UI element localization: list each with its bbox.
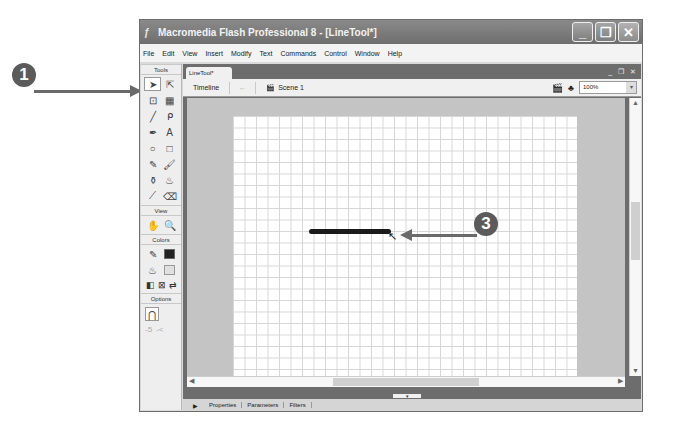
menu-commands[interactable]: Commands xyxy=(280,50,316,57)
stroke-color-swatch[interactable] xyxy=(161,247,178,261)
black-white-icon[interactable]: ◧ xyxy=(146,280,155,290)
horizontal-scrollbar[interactable]: ◀ ▶ xyxy=(187,376,625,387)
snap-to-objects-icon[interactable]: ⋂ xyxy=(145,307,159,321)
no-color-icon[interactable]: ⊠ xyxy=(158,280,166,290)
stage-canvas[interactable]: ↖ xyxy=(233,116,577,376)
text-tool-icon[interactable]: A xyxy=(161,125,178,139)
stroke-color-pencil-icon: ✎ xyxy=(144,247,161,261)
vertical-scrollbar[interactable]: ▲ ▼ xyxy=(629,98,641,376)
menu-window[interactable]: Window xyxy=(355,50,380,57)
line-tool-icon[interactable]: ╱ xyxy=(144,109,161,123)
scene-label: Scene 1 xyxy=(278,84,304,91)
smooth-icon[interactable]: -5 xyxy=(145,325,152,334)
menu-text[interactable]: Text xyxy=(260,50,273,57)
flash-app-icon: ƒ xyxy=(144,27,155,38)
menu-view[interactable]: View xyxy=(182,50,197,57)
callout-3: 3 xyxy=(474,212,498,236)
document-tab[interactable]: LineTool* xyxy=(186,67,232,79)
lasso-tool-icon[interactable]: ᑭ xyxy=(161,109,178,123)
scroll-left-icon[interactable]: ◀ xyxy=(189,377,194,385)
back-arrow-icon[interactable]: ← xyxy=(230,82,256,94)
callout-3-arrow-line xyxy=(411,234,477,237)
zoom-select[interactable]: 100% ▾ xyxy=(579,81,637,94)
eraser-tool-icon[interactable]: ⌫ xyxy=(161,189,178,203)
scroll-right-icon[interactable]: ▶ xyxy=(618,377,623,385)
edit-bar: Timeline ← 🎬 Scene 1 🎬 ♣ 100% ▾ xyxy=(183,79,641,97)
horizontal-scroll-thumb[interactable] xyxy=(333,378,479,386)
chevron-down-icon: ▾ xyxy=(626,82,636,93)
flash-window: ƒ Macromedia Flash Professional 8 - [Lin… xyxy=(139,19,643,412)
scroll-down-icon[interactable]: ▼ xyxy=(630,366,641,376)
close-button[interactable]: ✕ xyxy=(618,22,639,42)
callout-1-number: 1 xyxy=(19,65,28,85)
tools-panel: Tools ➤ ⇱ ⊡ ▦ ╱ ᑭ ✒ A ○ □ ✎ 🖌 ⚱ ♨ ⟋ ⌫ Vi… xyxy=(141,64,182,410)
zoom-value: 100% xyxy=(583,84,598,90)
options-header: Options xyxy=(141,293,181,304)
colors-header: Colors xyxy=(141,234,181,245)
menu-help[interactable]: Help xyxy=(388,50,402,57)
view-header: View xyxy=(141,205,181,216)
menu-modify[interactable]: Modify xyxy=(231,50,252,57)
tab-properties[interactable]: Properties xyxy=(204,402,242,408)
scene-breadcrumb[interactable]: 🎬 Scene 1 xyxy=(256,84,304,92)
properties-panel-bar: ▶ Properties Parameters Filters xyxy=(183,399,641,411)
callout-1: 1 xyxy=(12,63,36,87)
free-transform-tool-icon[interactable]: ⊡ xyxy=(144,93,161,107)
straighten-icon[interactable]: -< xyxy=(156,325,163,334)
menu-edit[interactable]: Edit xyxy=(162,50,174,57)
rectangle-tool-icon[interactable]: □ xyxy=(161,141,178,155)
ink-bottle-tool-icon[interactable]: ⚱ xyxy=(144,173,161,187)
document-window-controls[interactable]: _ ❐ ✕ xyxy=(608,68,638,76)
vertical-scroll-thumb[interactable] xyxy=(631,202,640,260)
splitter-grip-icon[interactable]: ▾ xyxy=(393,394,421,398)
pencil-tool-icon[interactable]: ✎ xyxy=(144,157,161,171)
callout-3-number: 3 xyxy=(481,214,490,234)
menu-control[interactable]: Control xyxy=(324,50,347,57)
selection-tool-icon[interactable]: ➤ xyxy=(144,77,161,91)
fill-color-bucket-icon: ♨ xyxy=(144,263,161,277)
expand-panel-icon[interactable]: ▶ xyxy=(193,402,198,409)
selection-cursor-icon: ↖ xyxy=(388,230,397,243)
hand-tool-icon[interactable]: ✋ xyxy=(144,218,161,232)
menu-file[interactable]: File xyxy=(143,50,154,57)
edit-scene-icon[interactable]: 🎬 xyxy=(552,83,563,93)
drawn-line-shape[interactable] xyxy=(309,229,391,234)
tab-filters[interactable]: Filters xyxy=(284,402,311,408)
eyedropper-tool-icon[interactable]: ⟋ xyxy=(144,189,161,203)
pen-tool-icon[interactable]: ✒ xyxy=(144,125,161,139)
tab-parameters[interactable]: Parameters xyxy=(242,402,284,408)
subselection-tool-icon[interactable]: ⇱ xyxy=(161,77,178,91)
fill-color-swatch[interactable] xyxy=(161,263,178,277)
swap-colors-icon[interactable]: ⇄ xyxy=(169,280,177,290)
title-bar[interactable]: ƒ Macromedia Flash Professional 8 - [Lin… xyxy=(140,20,642,44)
paint-bucket-tool-icon[interactable]: ♨ xyxy=(161,173,178,187)
scene-icon: 🎬 xyxy=(266,84,275,92)
scroll-up-icon[interactable]: ▲ xyxy=(630,98,641,108)
brush-tool-icon[interactable]: 🖌 xyxy=(161,157,178,171)
zoom-tool-icon[interactable]: 🔍 xyxy=(161,218,178,232)
window-title: Macromedia Flash Professional 8 - [LineT… xyxy=(158,27,377,38)
maximize-button[interactable]: ❐ xyxy=(595,22,616,42)
callout-1-arrow-line xyxy=(34,90,130,93)
oval-tool-icon[interactable]: ○ xyxy=(144,141,161,155)
edit-symbols-icon[interactable]: ♣ xyxy=(568,83,574,93)
menu-insert[interactable]: Insert xyxy=(205,50,223,57)
gradient-transform-tool-icon[interactable]: ▦ xyxy=(161,93,178,107)
timeline-button[interactable]: Timeline xyxy=(183,82,230,94)
tools-header: Tools xyxy=(141,64,181,75)
menu-bar: File Edit View Insert Modify Text Comman… xyxy=(140,44,642,62)
document-window: LineTool* _ ❐ ✕ Timeline ← 🎬 Scene 1 🎬 ♣… xyxy=(183,64,641,394)
minimize-button[interactable]: _ xyxy=(572,22,593,42)
